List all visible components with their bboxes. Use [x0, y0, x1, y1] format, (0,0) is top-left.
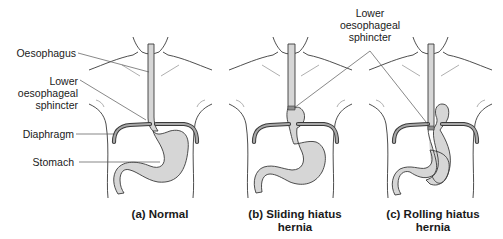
label-top-line3: sphincter	[330, 31, 410, 43]
label-stomach: Stomach	[8, 156, 74, 168]
panel-b-organs	[254, 44, 337, 193]
label-top-lower-oesophageal-sphincter: Lower oesophageal sphincter	[330, 7, 410, 43]
caption-panel-b: (b) Sliding hiatus hernia	[240, 208, 350, 234]
caption-panel-c: (c) Rolling hiatus hernia	[376, 208, 490, 234]
caption-c-line2: hernia	[376, 221, 490, 234]
caption-c-line1: (c) Rolling hiatus	[376, 208, 490, 221]
caption-b-line2: hernia	[240, 221, 350, 234]
hiatus-hernia-diagram	[0, 0, 503, 239]
label-top-line2: oesophageal	[330, 19, 410, 31]
caption-panel-a: (a) Normal	[110, 208, 210, 221]
label-les-line3: sphincter	[8, 99, 78, 111]
label-lower-oesophageal-sphincter: Lower oesophageal sphincter	[8, 75, 78, 111]
label-oesophagus: Oesophagus	[14, 47, 76, 59]
panel-a-organs	[114, 44, 197, 194]
leader-lines	[76, 51, 430, 162]
label-les-line1: Lower	[8, 75, 78, 87]
label-top-line1: Lower	[330, 7, 410, 19]
label-diaphragm: Diaphragm	[8, 128, 74, 140]
label-les-line2: oesophageal	[8, 87, 78, 99]
caption-a-line1: (a) Normal	[110, 208, 210, 221]
caption-b-line1: (b) Sliding hiatus	[240, 208, 350, 221]
